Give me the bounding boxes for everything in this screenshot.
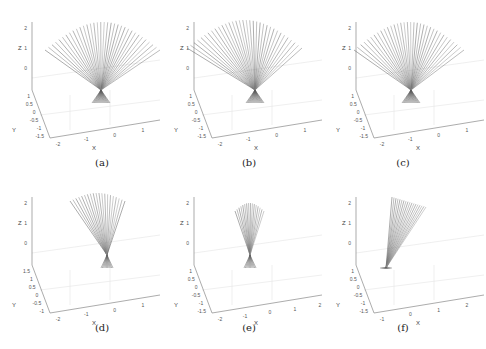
z-tick-label: 0 (348, 65, 351, 71)
x-tick-label: 1 (142, 302, 145, 308)
y-tick-label: 0.5 (350, 276, 357, 282)
axes (194, 197, 322, 313)
subplot-canvas: 210Z10.50-0.5-1-1.5Y-2-101X (162, 0, 324, 174)
subplot-a: 210Z10.50-0.5-1-1.5Y-2-101X(a) (0, 0, 162, 174)
grid-lines (356, 235, 484, 305)
x-tick-label: 1 (304, 127, 307, 133)
y-tick-label: 0.5 (26, 101, 33, 107)
y-tick-label: 0.5 (350, 101, 357, 107)
y-tick-label: -0.5 (30, 117, 39, 123)
y-tick-label: 1 (30, 276, 33, 282)
x-tick-label: 1 (437, 307, 440, 313)
grid-lines (32, 60, 160, 130)
subplot-caption: (c) (383, 157, 423, 168)
y-tick-label: -1.5 (35, 133, 44, 139)
y-axis-label: Y (12, 302, 16, 308)
y-tick-label: -1 (361, 125, 366, 131)
y-tick-label: -0.5 (33, 300, 42, 306)
y-tick-label: -1 (199, 125, 204, 131)
z-tick-label: 1 (186, 220, 189, 226)
x-tick-label: -2 (218, 316, 223, 322)
y-tick-label: 0 (195, 284, 198, 290)
y-axis-label: Y (174, 127, 178, 133)
z-tick-label: 0 (186, 240, 189, 246)
x-tick-label: 2 (319, 302, 322, 308)
y-tick-label: 0 (33, 109, 36, 115)
y-tick-label: 0.5 (188, 101, 195, 107)
y-tick-label: -1.5 (359, 133, 368, 139)
y-tick-label: 1 (189, 268, 192, 274)
y-axis-label: Y (12, 127, 16, 133)
x-tick-label: -1 (246, 136, 251, 142)
subplot-canvas: 210Z10.50-0.5-1-1.5Y-2-101X (0, 0, 162, 174)
z-tick-label: 1 (186, 45, 189, 51)
y-tick-label: -0.5 (192, 292, 201, 298)
subplot-c: 210Z10.50-0.5-1-1.5Y-2-101X(c) (324, 0, 486, 174)
subplot-caption: (d) (82, 322, 122, 333)
x-tick-label: 0 (437, 132, 440, 138)
x-tick-label: 1 (294, 306, 297, 312)
y-tick-label: 1.5 (23, 268, 30, 274)
y-tick-label: 0 (195, 109, 198, 115)
z-tick-label: 0 (348, 240, 351, 246)
y-tick-label: 1 (27, 93, 30, 99)
x-tick-label: -1 (408, 136, 413, 142)
z-tick-label: 1 (348, 45, 351, 51)
y-tick-label: 0 (36, 292, 39, 298)
subplot-caption: (f) (383, 322, 423, 333)
x-axis-label: X (416, 145, 420, 151)
ray-fan (70, 193, 125, 268)
subplot-f: 210Z10.50-0.5-1-1.5Y-1012X(f) (324, 175, 486, 349)
subplot-d: 210Z1.510.50-0.5-1Y-2-101X(d) (0, 175, 162, 349)
x-tick-label: 1 (466, 127, 469, 133)
z-tick-label: 2 (24, 25, 27, 31)
y-axis-label: Y (174, 302, 178, 308)
x-tick-label: 0 (113, 307, 116, 313)
y-tick-label: 1 (189, 93, 192, 99)
subplot-canvas: 210Z10.50-0.5-1-1.5Y-2-101X (324, 0, 486, 174)
z-tick-label: 0 (186, 65, 189, 71)
x-tick-label: -2 (56, 316, 61, 322)
z-tick-label: 2 (186, 200, 189, 206)
subplot-e: 210Z10.50-0.5-1-1.5Y-2-1012X(e) (162, 175, 324, 349)
y-tick-label: 0.5 (29, 284, 36, 290)
z-axis-label: Z (342, 220, 346, 226)
y-tick-label: 0 (357, 284, 360, 290)
axes (356, 197, 484, 313)
z-tick-label: 2 (348, 200, 351, 206)
y-axis-label: Y (336, 302, 340, 308)
x-tick-label: 0 (269, 309, 272, 315)
subplot-b: 210Z10.50-0.5-1-1.5Y-2-101X(b) (162, 0, 324, 174)
y-tick-label: -1.5 (359, 308, 368, 314)
y-tick-label: 1 (351, 93, 354, 99)
grid-lines (194, 235, 322, 305)
ray-fan (380, 197, 426, 268)
z-tick-label: 1 (24, 45, 27, 51)
z-tick-label: 2 (186, 25, 189, 31)
subplot-canvas: 210Z1.510.50-0.5-1Y-2-101X (0, 175, 162, 349)
x-tick-label: -1 (243, 313, 248, 319)
x-tick-label: 0 (113, 132, 116, 138)
x-tick-label: -1 (84, 136, 89, 142)
z-tick-label: 2 (348, 25, 351, 31)
y-tick-label: -1 (199, 300, 204, 306)
z-tick-label: 0 (24, 65, 27, 71)
x-tick-label: -1 (84, 311, 89, 317)
ray-fan (354, 22, 464, 103)
z-axis-label: Z (180, 45, 184, 51)
z-axis-label: Z (342, 45, 346, 51)
y-tick-label: 0 (357, 109, 360, 115)
x-axis-label: X (254, 145, 258, 151)
subplot-caption: (b) (229, 157, 269, 168)
x-tick-label: 0 (275, 132, 278, 138)
z-tick-label: 0 (24, 240, 27, 246)
ray-fan (235, 203, 264, 268)
x-tick-label: 2 (466, 302, 469, 308)
x-axis-label: X (92, 145, 96, 151)
x-tick-label: -2 (218, 141, 223, 147)
z-tick-label: 1 (348, 220, 351, 226)
z-tick-label: 2 (24, 200, 27, 206)
x-tick-label: 0 (409, 311, 412, 317)
y-tick-label: -1 (40, 308, 45, 314)
z-axis-label: Z (18, 45, 22, 51)
